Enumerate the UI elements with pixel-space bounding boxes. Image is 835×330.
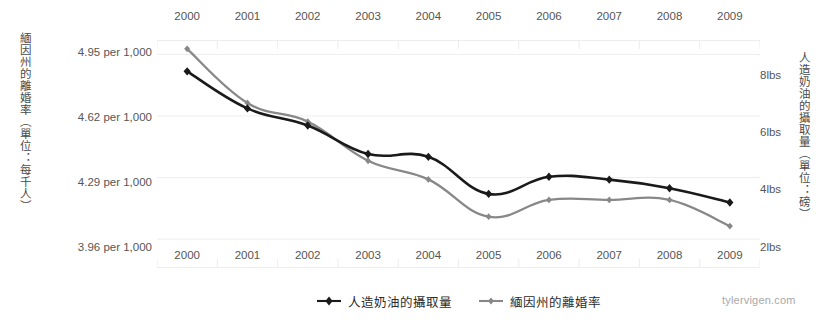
data-point-marker	[365, 157, 371, 164]
x-tick-label-top: 2009	[700, 10, 760, 30]
left-tick-label: 4.95 per 1,000	[78, 46, 152, 58]
right-tick-label: 2lbs	[760, 241, 781, 253]
x-tick-label-top: 2001	[217, 10, 277, 30]
right-tick-label: 6lbs	[760, 126, 781, 138]
x-tick-label-top: 2002	[278, 10, 338, 30]
data-point-marker	[425, 153, 432, 161]
right-axis-tick-labels: 8lbs 6lbs 4lbs 2lbs	[760, 0, 800, 330]
right-tick-label: 4lbs	[760, 183, 781, 195]
x-tick-label-top: 2004	[398, 10, 458, 30]
legend-line-marker-icon	[478, 295, 504, 307]
x-tick-label-top: 2000	[157, 10, 217, 30]
plot-svg	[157, 40, 760, 268]
data-point-marker	[666, 184, 673, 192]
series-lines	[187, 49, 730, 226]
data-point-marker	[545, 173, 552, 181]
left-tick-label: 3.96 per 1,000	[78, 241, 152, 253]
data-point-marker	[606, 175, 613, 183]
left-axis-title: 緬因州的離婚率（單位：每千人）	[18, 32, 30, 270]
chart-legend: 人造奶油的攝取量 緬因州的離婚率	[157, 288, 760, 314]
left-tick-label: 4.62 per 1,000	[78, 111, 152, 123]
legend-item-divorce-rate[interactable]: 緬因州的離婚率	[478, 292, 601, 311]
data-point-marker	[485, 190, 492, 198]
series-line-margarine	[187, 71, 730, 202]
left-axis-tick-labels: 4.95 per 1,000 4.62 per 1,000 4.29 per 1…	[40, 0, 152, 330]
data-point-marker	[425, 176, 431, 183]
data-point-marker	[667, 197, 673, 204]
x-tick-label-top: 2005	[458, 10, 518, 30]
data-point-marker	[364, 150, 371, 158]
data-point-marker	[606, 197, 612, 204]
watermark: tylervigen.com	[722, 294, 796, 306]
plot-area	[157, 40, 760, 268]
x-axis-labels-top: 2000 2001 2002 2003 2004 2005 2006 2007 …	[157, 10, 760, 30]
gridlines	[157, 41, 760, 268]
data-point-marker	[546, 197, 552, 204]
data-point-marker	[486, 213, 492, 220]
series-line-divorce-rate	[187, 49, 730, 226]
x-tick-label-top: 2006	[519, 10, 579, 30]
right-tick-label: 8lbs	[760, 69, 781, 81]
left-tick-label: 4.29 per 1,000	[78, 176, 152, 188]
legend-line-marker-icon	[316, 295, 342, 307]
data-point-marker	[726, 198, 733, 206]
x-axis-ticks	[157, 40, 760, 268]
data-point-marker	[727, 223, 733, 230]
legend-label: 緬因州的離婚率	[510, 292, 601, 311]
x-tick-label-top: 2003	[338, 10, 398, 30]
legend-label: 人造奶油的攝取量	[348, 292, 452, 311]
legend-item-margarine[interactable]: 人造奶油的攝取量	[316, 292, 452, 311]
x-tick-label-top: 2007	[579, 10, 639, 30]
correlation-line-chart: 緬因州的離婚率（單位：每千人） 人造奶油的攝取量（單位：磅） 4.95 per …	[0, 0, 835, 330]
x-tick-label-top: 2008	[639, 10, 699, 30]
